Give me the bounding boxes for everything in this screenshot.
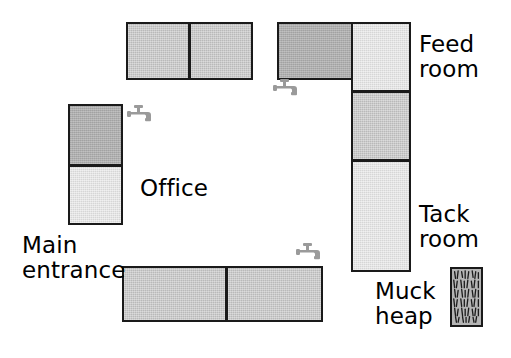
muck-heap-icon [450, 267, 483, 327]
tap-icon [126, 105, 156, 129]
main-entrance-label: Main entrance [22, 233, 125, 283]
feed-room-wing-cell [277, 22, 353, 80]
south-stable-cell-1 [122, 266, 227, 322]
south-stable-cell-2 [226, 266, 323, 322]
east-stable-cell-middle [351, 91, 411, 161]
tack-room-cell [351, 160, 411, 272]
office-cell-upper [68, 104, 123, 166]
tap-icon [272, 79, 302, 103]
tack-room-label: Tack room [419, 202, 479, 252]
feed-room-cell [351, 22, 411, 92]
office-cell-lower [68, 165, 123, 225]
office-label: Office [140, 176, 208, 201]
muck-heap-label: Muck heap [375, 279, 436, 329]
stable-yard-diagram: Office Main entrance Feed room Tack room… [0, 0, 511, 358]
north-stable-cell-1 [126, 22, 190, 80]
tap-icon [295, 243, 325, 267]
north-stable-cell-2 [189, 22, 253, 80]
feed-room-label: Feed room [419, 32, 479, 82]
